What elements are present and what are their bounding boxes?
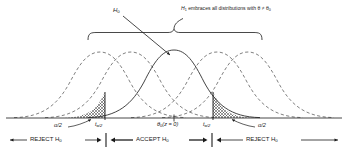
h0-label: H0 [113, 7, 120, 14]
region-label-reject-left: REJECT H0 [30, 136, 62, 143]
center-value-label: θ0(z = 0) [157, 122, 178, 128]
h0-pointer-arrow [123, 16, 170, 55]
alpha-right-label: α/2 [258, 123, 266, 129]
region-label-accept: ACCEPT H0 [136, 136, 169, 143]
h1-curves [14, 52, 334, 118]
h0-curve [88, 50, 260, 118]
h1-hook-leader [174, 19, 183, 30]
alpha-right-leader [232, 120, 255, 128]
h1-curve-rightmost [162, 52, 334, 118]
h1-annotation: H1 embraces all distributions with θ ≠ θ… [181, 6, 271, 12]
alpha-left-leader [68, 120, 91, 128]
critical-value-left-label: tα/2 [95, 122, 102, 128]
region-label-reject-right: REJECT H0 [246, 136, 278, 143]
critical-value-right-label: tα/2 [203, 122, 210, 128]
h1-curve-left [45, 52, 217, 118]
alpha-left-label: α/2 [54, 123, 62, 129]
left-rejection-tail [58, 92, 105, 118]
distributions-brace [88, 29, 262, 40]
